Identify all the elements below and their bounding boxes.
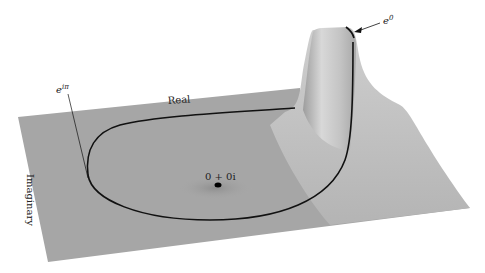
- complex-surface-diagram: Real Imaginary eiπ e0 0 + 0i: [0, 0, 485, 273]
- e-i-pi-label: eiπ: [56, 83, 69, 95]
- e-zero-arrowhead-icon: [354, 27, 362, 33]
- e-zero-label: e0: [383, 14, 394, 26]
- origin-label: 0 + 0i: [205, 171, 236, 182]
- origin-point: [215, 183, 222, 188]
- real-axis-label: Real: [167, 93, 190, 106]
- imaginary-axis-label: Imaginary: [25, 174, 36, 226]
